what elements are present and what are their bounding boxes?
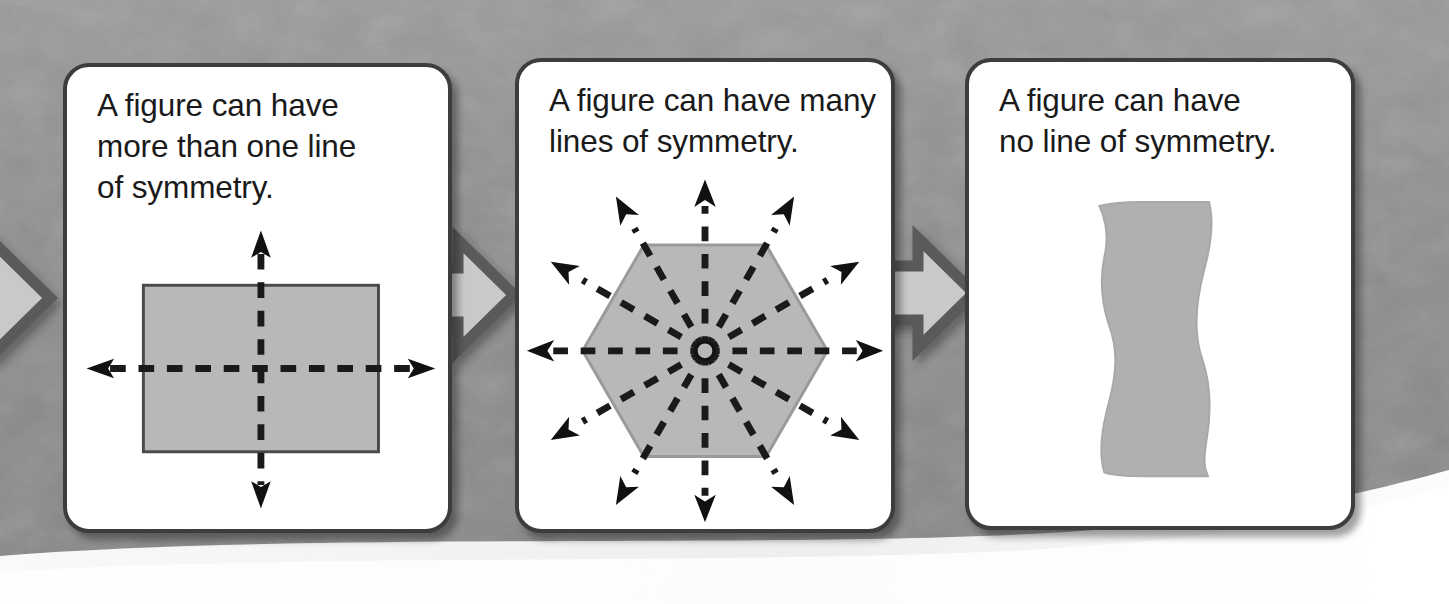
panel-3-statement: A figure can have no line of symmetry. — [999, 80, 1337, 162]
symmetry-arrowhead-right — [408, 359, 435, 379]
symmetry-arrowhead-up — [251, 230, 271, 257]
panel-2-statement: A figure can have many lines of symmetry… — [549, 80, 877, 162]
hexagon-shape — [583, 245, 828, 456]
wavy-shape — [1099, 202, 1211, 476]
symmetry-arrowheads-group — [527, 179, 883, 522]
rectangle-shape — [143, 285, 378, 452]
panel-card-2[interactable]: A figure can have many lines of symmetry… — [515, 58, 895, 533]
block-arrow-right-icon — [0, 243, 50, 353]
hexagon-center — [696, 342, 714, 360]
panel-card-3[interactable]: A figure can have no line of symmetry. — [965, 58, 1355, 530]
panel-1-statement: A figure can have more than one line of … — [97, 85, 434, 208]
panel-card-1[interactable]: A figure can have more than one line of … — [63, 63, 452, 533]
symmetry-arrowhead-left — [87, 359, 114, 379]
symmetry-lines-group — [553, 206, 856, 496]
diagram-stage: A figure can have more than one line of … — [0, 0, 1449, 604]
symmetry-arrowhead-down — [251, 481, 271, 508]
